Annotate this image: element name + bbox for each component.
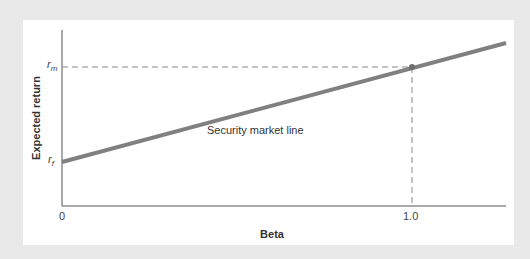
rm-tick-label: rm (47, 58, 57, 73)
rf-tick-label: rf (48, 153, 54, 168)
security-market-line (62, 43, 506, 162)
market-point (409, 64, 415, 70)
x-tick-1: 1.0 (403, 210, 418, 222)
y-axis-label: Expected return (30, 76, 42, 160)
x-axis-label: Beta (260, 228, 284, 240)
x-tick-0: 0 (59, 210, 65, 222)
rf-sub: f (52, 159, 54, 168)
sml-annotation: Security market line (207, 124, 304, 136)
rm-sub: m (51, 64, 58, 73)
